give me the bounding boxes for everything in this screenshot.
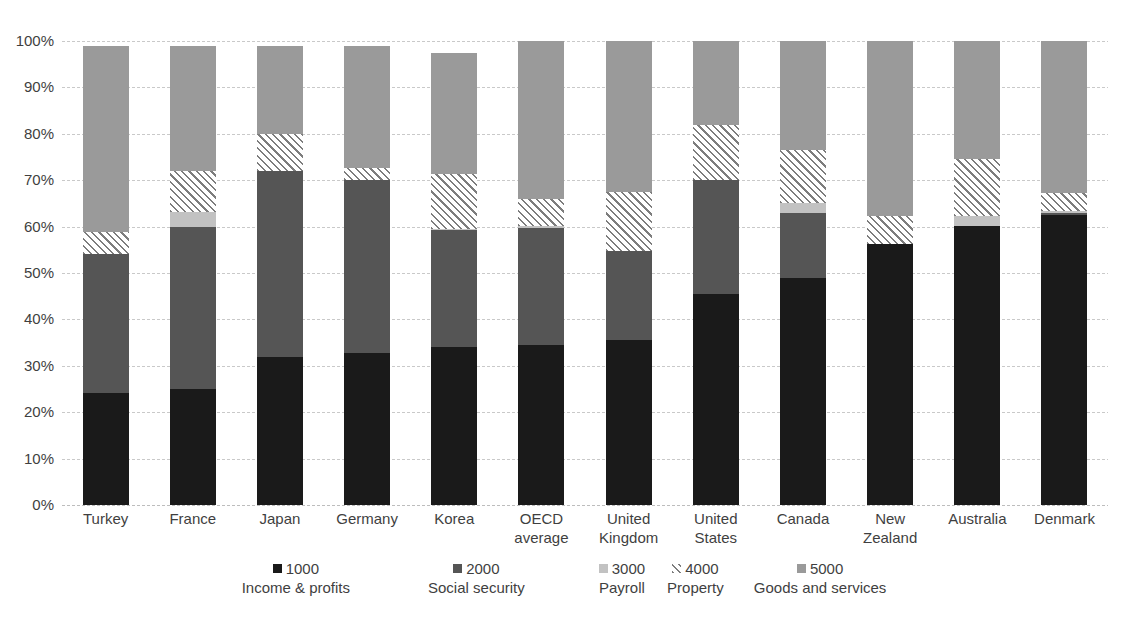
bar-segment-3000[interactable]	[780, 203, 826, 212]
bar-segment-4000[interactable]	[867, 216, 913, 244]
x-axis-label: UnitedKingdom	[585, 509, 672, 547]
bar-segment-5000[interactable]	[344, 46, 390, 168]
bar-segment-2000[interactable]	[780, 213, 826, 278]
legend-description: Income & profits	[242, 578, 350, 597]
y-axis-tick-label: 30%	[2, 358, 54, 373]
bar-series-group	[62, 41, 1108, 505]
bar-column[interactable]	[324, 41, 411, 505]
legend-swatch-icon	[672, 564, 681, 573]
legend-code-row: 3000	[599, 560, 645, 577]
bar-segment-1000[interactable]	[170, 389, 216, 505]
bar-segment-5000[interactable]	[867, 41, 913, 216]
bar-column[interactable]	[1021, 41, 1108, 505]
bar-segment-2000[interactable]	[170, 227, 216, 389]
bar-segment-4000[interactable]	[431, 174, 477, 229]
bar-segment-5000[interactable]	[170, 46, 216, 171]
bar-segment-5000[interactable]	[83, 46, 129, 233]
bar-segment-1000[interactable]	[83, 393, 129, 505]
bar-segment-1000[interactable]	[780, 278, 826, 505]
x-axis-label: Japan	[236, 509, 323, 547]
bar-segment-4000[interactable]	[693, 125, 739, 180]
bar-column[interactable]	[62, 41, 149, 505]
legend-item-1000[interactable]: 1000Income & profits	[242, 560, 350, 597]
legend-item-4000[interactable]: 4000Property	[667, 560, 724, 597]
legend-item-5000[interactable]: 5000Goods and services	[754, 560, 887, 597]
bar-segment-5000[interactable]	[257, 46, 303, 134]
legend-code: 3000	[612, 560, 645, 577]
bar-segment-1000[interactable]	[954, 226, 1000, 505]
bar-segment-4000[interactable]	[606, 192, 652, 251]
bar-stack	[257, 41, 303, 505]
x-axis-label: New Zealand	[847, 509, 934, 547]
bar-column[interactable]	[236, 41, 323, 505]
bar-segment-2000[interactable]	[257, 171, 303, 357]
bar-segment-3000[interactable]	[954, 216, 1000, 225]
legend-code-row: 1000	[273, 560, 319, 577]
bar-column[interactable]	[149, 41, 236, 505]
y-axis-tick-label: 60%	[2, 219, 54, 234]
bar-segment-4000[interactable]	[518, 199, 564, 226]
bar-segment-4000[interactable]	[83, 232, 129, 253]
legend-code-row: 5000	[797, 560, 843, 577]
y-axis-tick-label: 90%	[2, 79, 54, 94]
bar-segment-2000[interactable]	[83, 254, 129, 393]
bar-segment-1000[interactable]	[257, 357, 303, 505]
bar-stack	[780, 41, 826, 505]
bar-segment-3000[interactable]	[170, 212, 216, 226]
legend-description: Payroll	[599, 578, 645, 597]
bar-column[interactable]	[759, 41, 846, 505]
bar-segment-4000[interactable]	[344, 168, 390, 181]
plot-area	[62, 41, 1108, 505]
bar-column[interactable]	[672, 41, 759, 505]
legend-swatch-icon	[797, 564, 806, 573]
bar-segment-1000[interactable]	[693, 294, 739, 505]
x-axis-label: Denmark	[1021, 509, 1108, 547]
y-axis-tick-label: 0%	[2, 497, 54, 512]
bar-segment-1000[interactable]	[344, 353, 390, 505]
bar-segment-5000[interactable]	[518, 41, 564, 199]
y-axis-tick-label: 100%	[2, 33, 54, 48]
bar-segment-4000[interactable]	[780, 150, 826, 203]
bar-segment-2000[interactable]	[606, 251, 652, 341]
legend-item-2000[interactable]: 2000Social security	[428, 560, 525, 597]
stacked-bar-chart: 100%90%80%70%60%50%40%30%20%10%0% Turkey…	[0, 0, 1128, 631]
bar-stack	[867, 41, 913, 505]
bar-column[interactable]	[585, 41, 672, 505]
bar-segment-1000[interactable]	[431, 347, 477, 505]
legend-code-row: 4000	[672, 560, 718, 577]
bar-column[interactable]	[847, 41, 934, 505]
bar-segment-4000[interactable]	[954, 159, 1000, 216]
y-axis-tick-label: 10%	[2, 451, 54, 466]
bar-column[interactable]	[411, 41, 498, 505]
bar-segment-5000[interactable]	[431, 53, 477, 175]
bar-segment-2000[interactable]	[518, 228, 564, 346]
bar-column[interactable]	[498, 41, 585, 505]
bar-segment-5000[interactable]	[954, 41, 1000, 159]
x-axis-label: Germany	[324, 509, 411, 547]
bar-segment-5000[interactable]	[693, 41, 739, 125]
bar-segment-1000[interactable]	[518, 345, 564, 505]
bar-stack	[606, 41, 652, 505]
bar-segment-4000[interactable]	[1041, 193, 1087, 211]
bar-segment-5000[interactable]	[606, 41, 652, 192]
bar-segment-1000[interactable]	[867, 244, 913, 505]
bar-stack	[1041, 41, 1087, 505]
bar-segment-1000[interactable]	[1041, 215, 1087, 505]
bar-segment-2000[interactable]	[344, 180, 390, 353]
y-axis-tick-label: 80%	[2, 126, 54, 141]
legend-swatch-icon	[453, 564, 462, 573]
x-axis-label: Canada	[759, 509, 846, 547]
legend-item-3000[interactable]: 3000Payroll	[599, 560, 645, 597]
bar-segment-2000[interactable]	[693, 180, 739, 294]
bar-segment-4000[interactable]	[170, 171, 216, 212]
bar-segment-5000[interactable]	[780, 41, 826, 150]
bar-segment-1000[interactable]	[606, 340, 652, 505]
legend-description: Goods and services	[754, 578, 887, 597]
x-axis-label: France	[149, 509, 236, 547]
bar-segment-5000[interactable]	[1041, 41, 1087, 193]
bar-stack	[693, 41, 739, 505]
bar-segment-4000[interactable]	[257, 134, 303, 171]
bar-column[interactable]	[934, 41, 1021, 505]
bar-segment-2000[interactable]	[431, 230, 477, 347]
bar-stack	[170, 41, 216, 505]
